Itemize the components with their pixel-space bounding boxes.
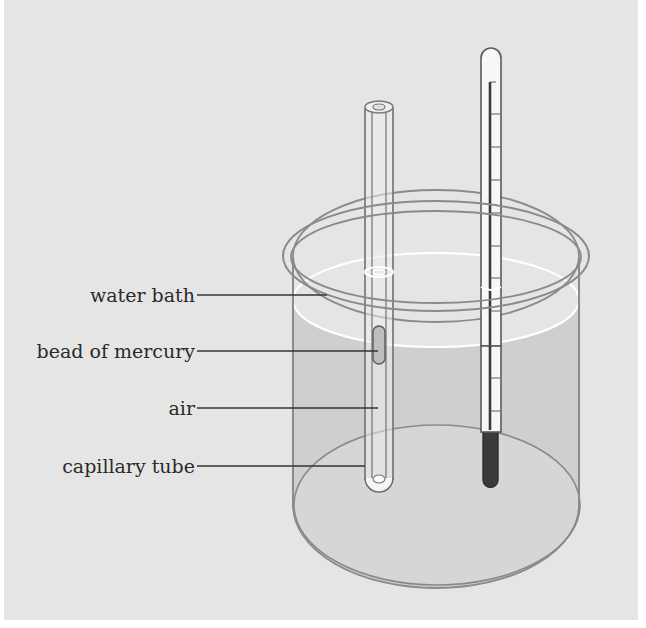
label-air: air [169, 397, 196, 419]
label-bead-of-mercury: bead of mercury [37, 340, 196, 362]
apparatus-diagram [0, 0, 646, 628]
beaker-rim [283, 201, 589, 311]
label-water-bath: water bath [90, 284, 195, 306]
capillary-tube [364, 101, 394, 492]
thermometer [481, 48, 501, 488]
mercury-bead [373, 326, 385, 364]
label-capillary-tube: capillary tube [62, 455, 195, 477]
